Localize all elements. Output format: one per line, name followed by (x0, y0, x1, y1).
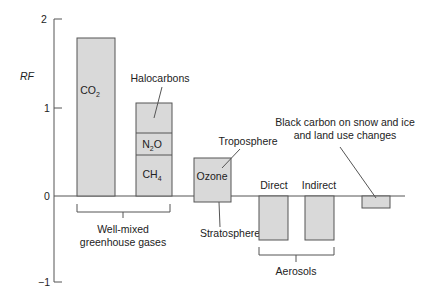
label-aerosols: Aerosols (276, 265, 317, 277)
y-tick-label-2: 2 (41, 13, 47, 25)
bar-co2 (77, 38, 115, 196)
y-tick-label-neg1: −1 (38, 276, 50, 288)
label-bc-1: Black carbon on snow and ice (275, 116, 415, 128)
y-axis-label: RF (20, 70, 35, 82)
leader-black-carbon (340, 147, 376, 198)
wmgg-bracket-shape (77, 204, 170, 218)
bar-aerosol-direct (259, 196, 288, 240)
aerosols-bracket (259, 247, 334, 262)
label-troposphere: Troposphere (218, 135, 277, 147)
label-stratosphere: Stratosphere (200, 227, 260, 239)
label-bc-2: and land use changes (294, 129, 397, 141)
y-tick-label-0: 0 (44, 190, 50, 202)
leader-stratosphere (219, 202, 220, 227)
y-tick-label-1: 1 (44, 102, 50, 114)
label-wmgg-1: Well-mixed (97, 223, 149, 235)
label-indirect: Indirect (302, 179, 337, 191)
label-halocarbons: Halocarbons (131, 72, 190, 84)
bar-aerosol-indirect (305, 196, 334, 240)
label-direct: Direct (260, 179, 288, 191)
label-ozone: Ozone (197, 170, 228, 182)
label-wmgg-2: greenhouse gases (80, 236, 166, 248)
rf-chart: 2 1 0 −1 RF CO2 N2O CH4 Halocarbons Ozon… (0, 0, 423, 299)
